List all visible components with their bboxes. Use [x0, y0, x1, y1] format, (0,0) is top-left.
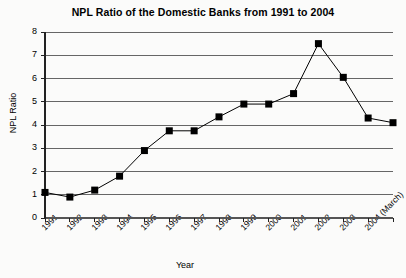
data-point-marker: [390, 119, 397, 126]
data-point-marker: [42, 189, 49, 196]
data-point-marker: [191, 127, 198, 134]
data-point-marker: [240, 101, 247, 108]
plot-area: [0, 0, 406, 278]
data-point-marker: [91, 187, 98, 194]
data-point-markers: [42, 40, 397, 200]
data-point-marker: [315, 40, 322, 47]
data-point-marker: [340, 74, 347, 81]
chart-figure: NPL Ratio of the Domestic Banks from 199…: [0, 0, 406, 278]
data-point-marker: [116, 173, 123, 180]
data-point-marker: [141, 147, 148, 154]
data-point-marker: [216, 113, 223, 120]
data-point-marker: [66, 194, 73, 201]
data-point-marker: [290, 90, 297, 97]
data-point-marker: [265, 101, 272, 108]
x-axis-ticks: [45, 218, 393, 222]
data-point-marker: [365, 115, 372, 122]
data-point-marker: [166, 127, 173, 134]
